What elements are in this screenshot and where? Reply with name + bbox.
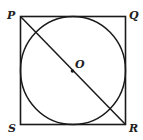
label-o: O <box>75 58 85 71</box>
geometry-diagram: P Q R S O <box>0 0 143 140</box>
center-point-o <box>71 69 75 73</box>
label-s: S <box>8 122 16 135</box>
label-p: P <box>6 9 16 22</box>
label-q: Q <box>129 9 139 22</box>
label-r: R <box>128 122 138 135</box>
